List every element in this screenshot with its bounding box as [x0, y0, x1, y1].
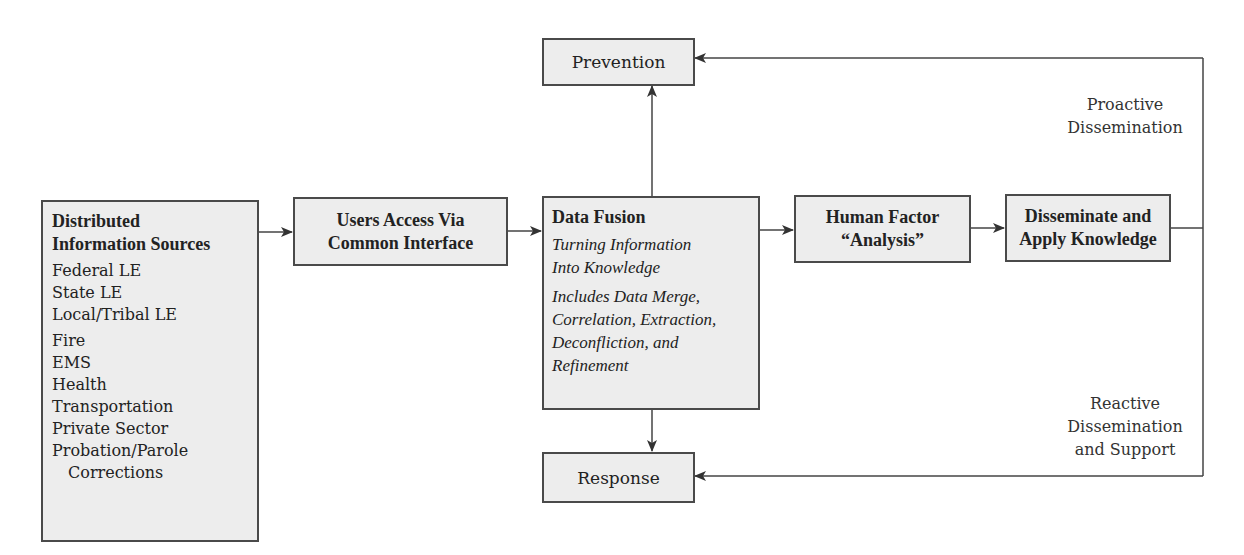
response-label: Response	[577, 467, 659, 489]
human-factor-line: Human Factor	[826, 206, 939, 229]
source-item: Fire	[52, 330, 257, 352]
sources-group-law-enforcement: Federal LE State LE Local/Tribal LE	[52, 260, 257, 326]
reactive-label-line: Reactive	[1060, 392, 1190, 415]
source-item: Federal LE	[52, 260, 257, 282]
data-fusion-detail-line: Refinement	[552, 354, 758, 377]
disseminate-line: Apply Knowledge	[1019, 228, 1157, 251]
source-item: EMS	[52, 352, 257, 374]
source-item: Local/Tribal LE	[52, 304, 257, 326]
sources-title-line: Information Sources	[52, 233, 257, 256]
reactive-label-line: Dissemination	[1060, 415, 1190, 438]
data-fusion-subtitle-line: Turning Information	[552, 233, 758, 256]
data-fusion-detail-line: Deconfliction, and	[552, 331, 758, 354]
sources-title-line: Distributed	[52, 210, 257, 233]
source-item: Transportation	[52, 396, 257, 418]
data-fusion-details: Includes Data Merge, Correlation, Extrac…	[552, 285, 758, 377]
data-fusion-detail-line: Includes Data Merge,	[552, 285, 758, 308]
prevention-label: Prevention	[572, 51, 666, 73]
disseminate-box: Disseminate and Apply Knowledge	[1005, 194, 1171, 262]
users-access-box: Users Access Via Common Interface	[293, 197, 508, 266]
data-fusion-detail-line: Correlation, Extraction,	[552, 308, 758, 331]
sources-box: Distributed Information Sources Federal …	[41, 200, 259, 542]
reactive-dissemination-label: Reactive Dissemination and Support	[1060, 392, 1190, 461]
proactive-label-line: Dissemination	[1060, 116, 1190, 139]
users-access-line: Users Access Via	[337, 209, 465, 232]
data-fusion-subtitle: Turning Information Into Knowledge	[552, 233, 758, 279]
reactive-label-line: and Support	[1060, 438, 1190, 461]
source-item: Probation/Parole	[52, 440, 257, 462]
data-fusion-box: Data Fusion Turning Information Into Kno…	[542, 196, 760, 410]
proactive-dissemination-label: Proactive Dissemination	[1060, 93, 1190, 139]
disseminate-line: Disseminate and	[1025, 205, 1152, 228]
data-fusion-subtitle-line: Into Knowledge	[552, 256, 758, 279]
users-access-line: Common Interface	[328, 232, 473, 255]
prevention-box: Prevention	[542, 38, 695, 86]
source-item: Corrections	[52, 462, 257, 484]
human-factor-box: Human Factor “Analysis”	[794, 195, 971, 263]
sources-title: Distributed Information Sources	[52, 210, 257, 256]
human-factor-line: “Analysis”	[841, 229, 924, 252]
source-item: Private Sector	[52, 418, 257, 440]
proactive-label-line: Proactive	[1060, 93, 1190, 116]
response-box: Response	[542, 452, 695, 503]
source-item: State LE	[52, 282, 257, 304]
source-item: Health	[52, 374, 257, 396]
sources-group-other: Fire EMS Health Transportation Private S…	[52, 330, 257, 484]
data-fusion-title: Data Fusion	[552, 206, 758, 229]
